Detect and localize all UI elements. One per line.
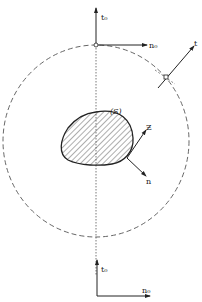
tangent-label: Ƶ <box>146 123 152 132</box>
region-label: (S) <box>110 107 122 116</box>
region-s <box>61 111 133 165</box>
surface-point <box>164 75 168 79</box>
diagram-canvas: t₀ n₀ t (S) Ƶ n t₀ n₀ <box>0 0 202 302</box>
bottom-n-label: n₀ <box>142 286 150 295</box>
normal-label: n <box>146 177 151 186</box>
bottom-t-label: t₀ <box>101 265 107 274</box>
top-t-label: t₀ <box>101 13 107 22</box>
top-n-label: n₀ <box>149 41 157 50</box>
surface-vector-label: t <box>194 39 198 48</box>
top-point <box>94 43 98 47</box>
normal-vector <box>127 158 146 176</box>
surface-normal-line <box>158 46 194 88</box>
